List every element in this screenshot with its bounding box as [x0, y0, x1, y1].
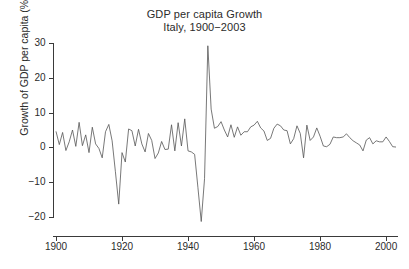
- series-line-growth: [0, 0, 409, 269]
- chart-figure: GDP per capita Growth Italy, 1900−2003 G…: [0, 0, 409, 269]
- series-path: [56, 46, 396, 222]
